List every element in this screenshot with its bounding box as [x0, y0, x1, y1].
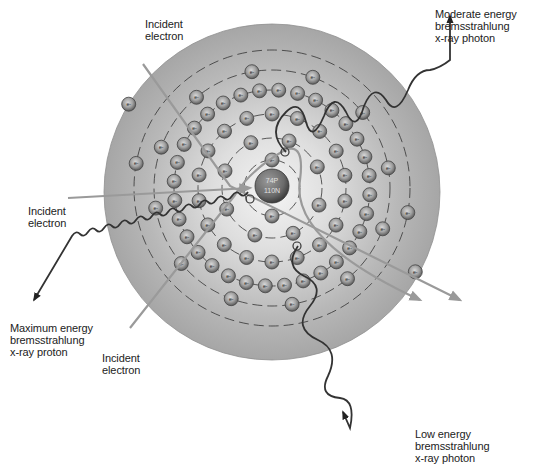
electron-symbol: e- — [319, 270, 324, 276]
electron-symbol: e- — [172, 178, 177, 184]
electron-symbol: e- — [223, 168, 228, 174]
electron-symbol: e- — [295, 255, 300, 261]
electron-symbol: e- — [257, 88, 262, 94]
electron-symbol: e- — [334, 259, 339, 265]
electron-symbol: e- — [159, 144, 164, 150]
electron-symbol: e- — [270, 111, 275, 117]
electron-symbol: e- — [282, 282, 287, 288]
atom-figure: e-e-e-e-e-e-e-e-e-e-e-e-e-e-e-e-e-e-e-e-… — [0, 0, 539, 471]
electron-symbol: e- — [253, 232, 258, 238]
label-incident-electron-bottom: Incident electron — [102, 352, 140, 376]
label-incident-electron-left: Incident electron — [28, 205, 66, 229]
electron-symbol: e- — [185, 234, 190, 240]
electron-symbol: e- — [210, 263, 215, 269]
electron-symbol: e- — [406, 210, 411, 216]
electron-symbol: e- — [175, 159, 180, 165]
electron-symbol: e- — [222, 128, 227, 134]
electron-symbol: e- — [291, 230, 296, 236]
electron-symbol: e- — [301, 278, 306, 284]
electron-symbol: e- — [334, 222, 339, 228]
electron-symbol: e- — [182, 141, 187, 147]
electron-symbol: e- — [226, 273, 231, 279]
electron-symbol: e- — [358, 229, 363, 235]
electron-symbol: e- — [173, 198, 178, 204]
electron-symbol: e- — [311, 74, 316, 80]
electron-symbol: e- — [345, 276, 350, 282]
electron-symbol: e- — [363, 154, 368, 160]
label-incident-electron-top: Incident electron — [145, 18, 183, 42]
electron-symbol: e- — [343, 172, 348, 178]
electron-symbol: e- — [276, 87, 281, 93]
electron-symbol: e- — [295, 116, 300, 122]
label-moderate-energy-photon: Moderate energy bremsstrahlung x-ray pho… — [435, 8, 517, 44]
electron-symbol: e- — [153, 205, 158, 211]
electron-symbol: e- — [295, 90, 300, 96]
electron-symbol: e- — [177, 216, 182, 222]
electron-symbol: e- — [196, 249, 201, 255]
electron-symbol: e- — [344, 121, 349, 127]
electron-symbol: e- — [192, 125, 197, 131]
electron-symbol: e- — [330, 107, 335, 113]
electron-symbol: e- — [244, 255, 249, 261]
electron-symbol: e- — [315, 164, 320, 170]
electron-symbol: e- — [245, 115, 250, 121]
electron-symbol: e- — [290, 301, 295, 307]
bremsstrahlung-diagram: e-e-e-e-e-e-e-e-e-e-e-e-e-e-e-e-e-e-e-e-… — [0, 0, 539, 471]
label-maximum-energy-photon: Maximum energy bremsstrahlung x-ray prot… — [10, 322, 93, 358]
electron-symbol: e- — [287, 138, 292, 144]
nucleus: 74P 110N — [255, 169, 289, 203]
electron-symbol: e- — [343, 198, 348, 204]
electron-symbol: e- — [368, 192, 373, 198]
electron-symbol: e- — [197, 172, 202, 178]
electron-symbol: e- — [229, 296, 234, 302]
electron-symbol: e- — [249, 140, 254, 146]
electron-symbol: e- — [134, 160, 139, 166]
electron-symbol: e- — [222, 242, 227, 248]
electron-symbol: e- — [250, 69, 255, 75]
electron-symbol: e- — [270, 213, 275, 219]
electron-symbol: e- — [270, 259, 275, 265]
electron-symbol: e- — [194, 94, 199, 100]
electron-symbol: e- — [317, 242, 322, 248]
electron-symbol: e- — [205, 111, 210, 117]
electron-symbol: e- — [413, 269, 418, 275]
label-low-energy-photon: Low energy bremsstrahlung x-ray photon — [415, 428, 489, 464]
electron-symbol: e- — [355, 136, 360, 142]
electron-symbol: e- — [364, 211, 369, 217]
nucleus-protons: 74P — [266, 177, 279, 184]
electron-symbol: e- — [244, 280, 249, 286]
electron-symbol: e- — [263, 283, 268, 289]
electron-symbol: e- — [317, 128, 322, 134]
electron-symbol: e- — [334, 148, 339, 154]
nucleus-neutrons: 110N — [264, 187, 280, 194]
electron-symbol: e- — [386, 165, 391, 171]
electron-symbol: e- — [239, 92, 244, 98]
electron-symbol: e- — [367, 173, 372, 179]
electron-symbol: e- — [380, 226, 385, 232]
electron-symbol: e- — [221, 100, 226, 106]
electron-symbol: e- — [126, 101, 131, 107]
electron-symbol: e- — [317, 202, 322, 208]
electron-symbol: e- — [313, 97, 318, 103]
